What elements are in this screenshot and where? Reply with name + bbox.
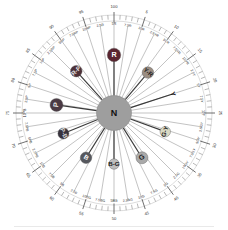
tick-minor bbox=[186, 51, 189, 54]
scale-number-label: 60 bbox=[49, 195, 56, 202]
tick-minor bbox=[38, 51, 41, 54]
hue-label: 2.5RP bbox=[47, 45, 57, 55]
hue-label: 5RP bbox=[58, 37, 66, 45]
tick-minor bbox=[18, 131, 22, 132]
tick-minor bbox=[17, 101, 21, 102]
tick-minor bbox=[186, 173, 189, 176]
spoke-line bbox=[119, 29, 141, 96]
tick-minor bbox=[201, 77, 205, 79]
tick-major bbox=[18, 82, 28, 85]
hue-label: 2.5PB bbox=[31, 148, 39, 159]
hue-label: 7.5PB bbox=[24, 122, 30, 133]
scale-number-label: 55 bbox=[78, 210, 85, 216]
tick-major bbox=[142, 199, 145, 209]
scale-number-label: 30 bbox=[211, 142, 217, 149]
hue-label: 10YR bbox=[181, 56, 190, 66]
tick-minor bbox=[23, 77, 27, 79]
tick-minor bbox=[43, 46, 46, 49]
hue-label: 5YR bbox=[162, 38, 170, 46]
tick-minor bbox=[78, 200, 80, 204]
tick-major bbox=[142, 17, 145, 27]
tick-major bbox=[83, 199, 86, 209]
tick-minor bbox=[47, 181, 50, 184]
spoke-line bbox=[36, 73, 99, 105]
tick-minor bbox=[47, 42, 50, 45]
tick-minor bbox=[132, 17, 133, 21]
tick-minor bbox=[102, 206, 103, 210]
tick-minor bbox=[159, 195, 161, 199]
tick-minor bbox=[72, 198, 74, 202]
color-node-label: Y bbox=[169, 91, 177, 98]
tick-minor bbox=[18, 95, 22, 96]
tick-minor bbox=[206, 131, 210, 132]
color-node-label: B-G bbox=[108, 160, 120, 167]
tick-minor bbox=[205, 89, 209, 90]
tick-minor bbox=[126, 16, 127, 20]
scale-number-label: 10 bbox=[173, 24, 180, 31]
munsell-hue-circle-chart: 5R7.5R10R2.5YR5YR7.5YR10YR2.5Y5Y7.5Y10Y2… bbox=[0, 0, 228, 230]
scale-number-label: 80 bbox=[10, 76, 16, 83]
tick-minor bbox=[67, 195, 69, 199]
hue-label: 5GY bbox=[195, 136, 201, 145]
scale-number-label: 85 bbox=[25, 47, 32, 54]
tick-minor bbox=[182, 177, 185, 180]
hue-label: 2.5P bbox=[24, 95, 29, 103]
tick-minor bbox=[72, 24, 74, 28]
spoke-line bbox=[27, 116, 97, 127]
scale-number-label: 35 bbox=[196, 171, 203, 178]
tick-minor bbox=[25, 71, 29, 73]
hue-label: 5P bbox=[27, 82, 32, 88]
spoke-line bbox=[30, 86, 97, 108]
hue-label: 2.5BG bbox=[123, 198, 134, 204]
spoke-line bbox=[100, 26, 111, 96]
tick-minor bbox=[199, 71, 203, 73]
scale-number-label: 50 bbox=[112, 216, 117, 221]
spoke-line bbox=[131, 99, 201, 110]
hue-label: 7.5GY bbox=[189, 147, 197, 158]
hue-label: 10PB bbox=[23, 108, 27, 117]
scale-number-label: 70 bbox=[11, 143, 17, 150]
hue-label: 7.5B bbox=[48, 172, 56, 180]
tick-minor bbox=[182, 46, 185, 49]
tick-minor bbox=[23, 147, 27, 149]
scale-number-label: 15 bbox=[197, 47, 204, 54]
tick-minor bbox=[207, 125, 211, 126]
scale-number-label: 95 bbox=[78, 8, 85, 14]
tick-minor bbox=[38, 173, 41, 176]
tick-minor bbox=[132, 205, 133, 209]
spoke-line bbox=[122, 35, 154, 98]
tick-major bbox=[83, 17, 86, 27]
tick-minor bbox=[201, 147, 205, 149]
tick-minor bbox=[154, 24, 156, 28]
tick-minor bbox=[159, 27, 161, 31]
hue-wheel-svg: 5R7.5R10R2.5YR5YR7.5YR10YR2.5Y5Y7.5Y10Y2… bbox=[0, 0, 228, 230]
tick-minor bbox=[164, 192, 166, 196]
tick-major bbox=[200, 141, 210, 144]
scale-number-label: 40 bbox=[173, 195, 180, 202]
tick-minor bbox=[52, 185, 55, 188]
spoke-line bbox=[117, 26, 128, 96]
tick-minor bbox=[28, 66, 32, 68]
tick-minor bbox=[31, 163, 35, 165]
tick-minor bbox=[196, 66, 200, 68]
tick-minor bbox=[193, 163, 197, 165]
tick-minor bbox=[52, 37, 55, 40]
hue-label: 10GY bbox=[181, 160, 190, 170]
tick-minor bbox=[199, 153, 203, 155]
scale-number-label: 100 bbox=[111, 4, 119, 9]
tick-minor bbox=[126, 206, 127, 210]
tick-minor bbox=[137, 204, 138, 208]
tick-minor bbox=[67, 27, 69, 31]
tick-minor bbox=[28, 158, 32, 160]
hue-label: 5G bbox=[163, 181, 169, 187]
tick-minor bbox=[19, 136, 23, 137]
tick-minor bbox=[61, 192, 63, 196]
tick-minor bbox=[205, 136, 209, 137]
tick-minor bbox=[193, 60, 197, 62]
tick-minor bbox=[154, 198, 156, 202]
tick-minor bbox=[207, 101, 211, 102]
tick-minor bbox=[78, 22, 80, 26]
tick-minor bbox=[17, 125, 21, 126]
tick-minor bbox=[43, 177, 46, 180]
tick-minor bbox=[31, 60, 35, 62]
